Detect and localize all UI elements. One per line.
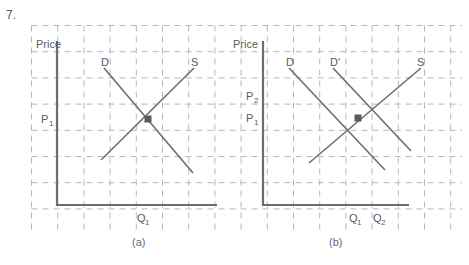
panel-b-price-axis-label: Price xyxy=(233,38,258,50)
panel-a-quantity-tick-q1-sub: 1 xyxy=(145,218,150,227)
panel-b-price-tick-p1: P 1 xyxy=(246,112,259,127)
grid-layer xyxy=(32,26,463,234)
panel-b-caption: (b) xyxy=(329,236,342,248)
panel-b: Price D D' S P 2 P 1 Q 1 Q 2 xyxy=(233,38,424,227)
panel-a-caption: (a) xyxy=(132,236,145,248)
panel-b-equilibrium-point-1 xyxy=(355,115,362,122)
figure-container: Price D S P 1 Q 1 xyxy=(0,0,469,265)
page-root: 7. Price D S P 1 xyxy=(0,0,469,265)
panel-b-price-tick-p2-label: P xyxy=(246,90,253,102)
panel-b-quantity-tick-q1-sub: 1 xyxy=(357,218,362,227)
panel-b-quantity-tick-q2-sub: 2 xyxy=(381,218,386,227)
panel-a-quantity-tick-q1: Q 1 xyxy=(137,212,150,227)
panel-b-price-tick-p1-sub: 1 xyxy=(254,118,259,127)
panel-a-price-axis-label: Price xyxy=(36,38,61,50)
panel-b-supply-label: S xyxy=(417,56,424,68)
panel-b-demand-label: D xyxy=(286,56,294,68)
supply-demand-figure: Price D S P 1 Q 1 xyxy=(0,0,469,265)
panel-a-supply-label: S xyxy=(191,56,198,68)
panel-b-price-tick-p2-sub: 2 xyxy=(254,96,259,105)
panel-a-price-tick-p1-sub: 1 xyxy=(49,119,54,128)
panel-a: Price D S P 1 Q 1 xyxy=(36,38,217,227)
panel-a-equilibrium-point xyxy=(145,116,152,123)
panel-b-quantity-tick-q1: Q 1 xyxy=(349,212,362,227)
panel-b-demand-curve xyxy=(289,68,385,170)
panel-b-demand-shifted-label: D' xyxy=(330,56,340,68)
panel-a-demand-label: D xyxy=(101,56,109,68)
panel-b-price-tick-p2: P 2 xyxy=(246,90,259,105)
panel-b-price-tick-p1-label: P xyxy=(246,112,253,124)
panel-a-price-tick-p1: P 1 xyxy=(41,113,54,128)
panel-b-quantity-tick-q2: Q 2 xyxy=(373,212,386,227)
panel-a-price-tick-p1-label: P xyxy=(41,113,48,125)
